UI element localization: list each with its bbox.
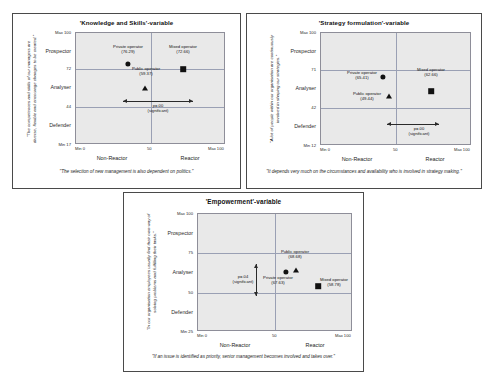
chart-title-empowerment: 'Empowerment'-variable	[124, 198, 363, 205]
data-label-value: (58.78)	[320, 282, 348, 287]
x-tick-max-knowledge: Max 100	[208, 146, 224, 151]
chart-title-knowledge: 'Knowledge and Skills'-variable	[13, 19, 240, 26]
plot-area-strategy: Private operator (65.41) Public operator…	[320, 32, 471, 145]
y-tick-max: Max 100	[177, 211, 193, 216]
y-axis-labels-strategy: Max 100 Prospector 71 Analyser 42 Defend…	[272, 32, 316, 145]
y-category-prospector: Prospector	[45, 48, 71, 54]
y-axis-labels-knowledge: Max 100 Prospector 72 Analyser 44 Defend…	[27, 32, 71, 144]
y-tick-max: Max 100	[300, 30, 316, 35]
x-category-reactor: Reactor	[181, 155, 200, 161]
x-tick-mid-empowerment: 50	[272, 333, 277, 338]
data-label-private-operator: Private operator (65.41)	[347, 70, 377, 81]
x-tick-mid-knowledge: 50	[147, 146, 152, 151]
y-tick-min: Min 25	[180, 329, 193, 334]
y-category-prospector: Prospector	[290, 48, 316, 54]
data-label-private-operator: Private operator (67.63)	[263, 275, 293, 286]
gridline-vertical	[275, 214, 276, 330]
y-tick-min: Min 12	[303, 143, 316, 148]
significance-note: (significant)	[148, 108, 169, 113]
significance-label: p=.00 (significant)	[148, 103, 169, 113]
x-category-reactor: Reactor	[426, 156, 445, 162]
data-label-public-operator: Public operator (49.44)	[353, 91, 381, 102]
significance-bar	[387, 124, 439, 125]
chart-panel-empowerment: 'Empowerment'-variable "In our organisat…	[123, 192, 364, 372]
data-label-value: (65.41)	[347, 75, 377, 80]
y-axis-labels-empowerment: Max 100 Prospector 75 Analyser 50 Defend…	[149, 213, 193, 331]
significance-note: (significant)	[409, 131, 430, 136]
x-tick-mid-strategy: 50	[393, 147, 398, 152]
chart-title-strategy: 'Strategy formulation'-variable	[247, 19, 481, 26]
y-category-prospector: Prospector	[167, 230, 193, 236]
x-tick-min-knowledge: Min 0	[75, 146, 85, 151]
data-label-value: (67.63)	[263, 280, 293, 285]
x-category-non-reactor: Non-Reactor	[220, 342, 251, 348]
data-point-mixed-operator[interactable]	[428, 88, 434, 94]
y-category-analyser: Analyser	[50, 84, 71, 90]
data-point-public-operator[interactable]	[142, 86, 148, 91]
significance-note: (significant)	[233, 279, 254, 284]
data-label-value: (49.44)	[353, 96, 381, 101]
y-category-defender: Defender	[171, 309, 193, 315]
data-label-mixed-operator: Mixed operator (58.78)	[320, 277, 348, 288]
data-label-value: (62.66)	[417, 72, 445, 77]
x-tick-max-strategy: Max 100	[454, 147, 470, 152]
figure-page: 'Knowledge and Skills'-variable "The com…	[0, 0, 488, 384]
y-tick-44: 44	[66, 104, 71, 109]
gridline-vertical	[396, 33, 397, 144]
x-category-non-reactor: Non-Reactor	[97, 155, 128, 161]
x-tick-max-empowerment: Max 100	[335, 333, 351, 338]
gridline-vertical	[151, 33, 152, 143]
data-point-private-operator[interactable]	[283, 269, 288, 274]
x-category-non-reactor: Non-Reactor	[342, 156, 373, 162]
y-tick-50: 50	[188, 290, 193, 295]
y-tick-71: 71	[311, 67, 316, 72]
x-tick-min-empowerment: Min 0	[197, 333, 207, 338]
chart-panel-strategy: 'Strategy formulation'-variable "A lot o…	[246, 13, 482, 189]
chart-panel-knowledge: 'Knowledge and Skills'-variable "The com…	[12, 13, 241, 189]
data-label-value: (76.29)	[113, 49, 143, 54]
data-label-value: (59.37)	[132, 71, 160, 76]
data-point-public-operator[interactable]	[293, 268, 299, 273]
data-label-public-operator: Public operator (59.37)	[132, 66, 160, 77]
y-category-defender: Defender	[49, 122, 71, 128]
data-label-value: (72.66)	[169, 49, 197, 54]
data-label-public-operator: Public operator (68.68)	[281, 249, 309, 260]
x-tick-min-strategy: Min 0	[320, 147, 330, 152]
data-point-private-operator[interactable]	[125, 61, 130, 66]
y-tick-75: 75	[188, 250, 193, 255]
significance-bar	[256, 264, 257, 296]
x-axis-caption-strategy: "It depends very much on the circumstanc…	[255, 169, 473, 175]
y-tick-min: Min 17	[58, 142, 71, 147]
significance-bar	[123, 101, 193, 102]
data-label-mixed-operator: Mixed operator (72.66)	[169, 44, 197, 55]
plot-area-empowerment: Private operator (67.63) Public operator…	[197, 213, 352, 331]
significance-label: p=.00 (significant)	[409, 126, 430, 136]
x-axis-caption-knowledge: "The selection of new management is also…	[21, 169, 232, 175]
significance-label: p=.04 (significant)	[233, 274, 254, 284]
x-axis-caption-empowerment: "If an issue is identified as priority, …	[132, 354, 355, 360]
y-tick-max: Max 100	[55, 30, 71, 35]
x-category-reactor: Reactor	[306, 342, 325, 348]
data-point-private-operator[interactable]	[380, 74, 385, 79]
y-category-analyser: Analyser	[295, 85, 316, 91]
data-point-mixed-operator[interactable]	[180, 66, 186, 72]
y-tick-42: 42	[311, 105, 316, 110]
y-category-defender: Defender	[294, 123, 316, 129]
y-category-analyser: Analyser	[172, 269, 193, 275]
data-label-mixed-operator: Mixed operator (62.66)	[417, 67, 445, 78]
y-tick-72: 72	[66, 66, 71, 71]
data-point-public-operator[interactable]	[386, 94, 392, 99]
data-label-private-operator: Private operator (76.29)	[113, 44, 143, 55]
data-label-value: (68.68)	[281, 254, 309, 259]
plot-area-knowledge: Private operator (76.29) Public operator…	[75, 32, 225, 144]
